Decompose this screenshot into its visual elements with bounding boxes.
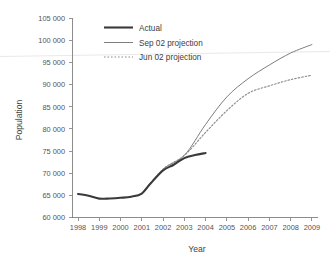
series-line-jun-02-projection (142, 75, 312, 193)
y-tick-label-95000: 95 000 (42, 58, 65, 67)
chart-canvas: 60 000 65 000 70 000 75 000 80 000 85 00… (0, 0, 330, 264)
x-tick-label-2007: 2007 (261, 223, 277, 232)
y-tick-label-60000: 60 000 (42, 213, 65, 222)
population-projection-chart: 60 000 65 000 70 000 75 000 80 000 85 00… (0, 0, 330, 264)
y-axis: 60 000 65 000 70 000 75 000 80 000 85 00… (14, 14, 72, 223)
series-line-actual (78, 153, 206, 199)
x-axis-title: Year (188, 244, 206, 254)
y-tick-label-85000: 85 000 (42, 103, 65, 112)
x-axis: 1998 1999 2000 2001 2002 2003 2004 2005 … (70, 218, 320, 255)
x-tick-label-2003: 2003 (176, 223, 192, 232)
x-tick-label-2009: 2009 (304, 223, 320, 232)
series-line-sep-02-projection (142, 45, 312, 194)
y-tick-label-65000: 65 000 (42, 191, 65, 200)
y-tick-label-75000: 75 000 (42, 147, 65, 156)
x-axis-ticks (78, 218, 312, 222)
legend-label-actual: Actual (139, 24, 162, 33)
x-tick-label-2001: 2001 (134, 223, 150, 232)
y-axis-tick-labels: 60 000 65 000 70 000 75 000 80 000 85 00… (38, 14, 65, 223)
legend-label-jun-02-projection: Jun 02 projection (139, 53, 202, 62)
y-tick-label-90000: 90 000 (42, 80, 65, 89)
x-tick-label-2005: 2005 (219, 223, 235, 232)
x-tick-label-2008: 2008 (282, 223, 298, 232)
x-tick-label-2000: 2000 (112, 223, 128, 232)
x-tick-label-2006: 2006 (240, 223, 256, 232)
x-tick-label-2002: 2002 (155, 223, 171, 232)
x-tick-label-1998: 1998 (70, 223, 86, 232)
legend-label-sep-02-projection: Sep 02 projection (139, 39, 203, 48)
y-tick-label-105000: 105 000 (38, 14, 65, 23)
legend: Actual Sep 02 projection Jun 02 projecti… (104, 24, 203, 63)
y-axis-ticks (69, 18, 73, 218)
y-tick-label-80000: 80 000 (42, 125, 65, 134)
y-tick-label-100000: 100 000 (38, 36, 65, 45)
x-axis-tick-labels: 1998 1999 2000 2001 2002 2003 2004 2005 … (70, 223, 320, 232)
plot-series-group (78, 45, 312, 199)
y-tick-label-70000: 70 000 (42, 169, 65, 178)
x-tick-label-1999: 1999 (91, 223, 107, 232)
y-axis-title: Population (14, 99, 24, 140)
x-tick-label-2004: 2004 (197, 223, 213, 232)
